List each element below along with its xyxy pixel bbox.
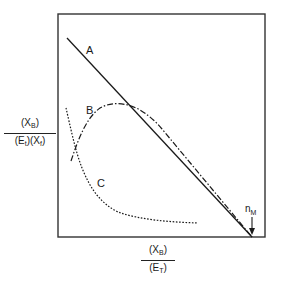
x-axis-label-denominator: (ET) bbox=[141, 261, 175, 277]
curve-a bbox=[67, 38, 252, 237]
x-axis-label-numerator: (XB) bbox=[141, 244, 175, 261]
curve-b bbox=[71, 104, 252, 237]
curve-a-label: A bbox=[86, 44, 94, 56]
y-axis-label-numerator: (XB) bbox=[4, 117, 56, 134]
y-axis-label: (XB) (Et)(Xf) bbox=[4, 117, 56, 150]
nm-label: nM bbox=[245, 203, 257, 216]
curve-b-label: B bbox=[86, 104, 93, 116]
curve-c-label: C bbox=[97, 177, 105, 189]
x-axis-label: (XB) (ET) bbox=[141, 244, 175, 277]
y-axis-label-denominator: (Et)(Xf) bbox=[4, 134, 56, 150]
